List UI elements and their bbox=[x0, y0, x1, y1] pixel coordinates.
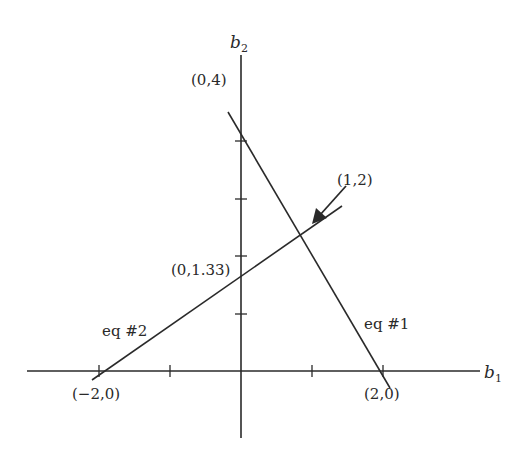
eq1-label: eq #1 bbox=[364, 315, 409, 333]
point-label-1-2: (1,2) bbox=[337, 171, 373, 189]
y-axis-label: b2 bbox=[230, 32, 248, 55]
eq1-line bbox=[228, 112, 390, 388]
x-axis-label: b1 bbox=[484, 362, 502, 385]
intersection-arrow-icon bbox=[312, 186, 346, 224]
eq2-line bbox=[92, 206, 342, 380]
point-label-neg2-0: (−2,0) bbox=[72, 385, 120, 403]
eq2-label: eq #2 bbox=[102, 322, 147, 340]
diagram-canvas: b2 b1 (0,4) (1,2) (0,1.33) (−2,0) (2,0) … bbox=[0, 0, 523, 475]
point-label-0-4: (0,4) bbox=[191, 71, 227, 89]
point-label-0-1.33: (0,1.33) bbox=[171, 261, 230, 279]
point-label-2-0: (2,0) bbox=[364, 385, 400, 403]
